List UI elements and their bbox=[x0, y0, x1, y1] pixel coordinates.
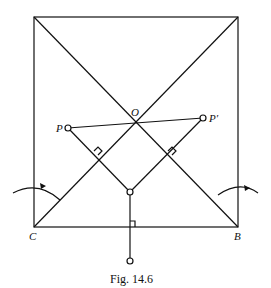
figure-caption: Fig. 14.6 bbox=[110, 272, 153, 286]
label-B: B bbox=[234, 230, 241, 242]
point-P-prime bbox=[200, 115, 206, 121]
label-P-prime: P′ bbox=[208, 112, 219, 124]
perpendicular-from-P-prime bbox=[130, 118, 203, 192]
arrowhead-left bbox=[40, 183, 46, 189]
segment-P-P-prime bbox=[68, 118, 203, 128]
label-C: C bbox=[29, 230, 37, 242]
point-bottom bbox=[127, 258, 133, 264]
point-P bbox=[65, 125, 71, 131]
label-P: P bbox=[55, 122, 63, 134]
rotation-arrow-left bbox=[13, 188, 60, 200]
right-angle-mark-right bbox=[168, 147, 176, 155]
right-angle-mark-base bbox=[130, 221, 135, 227]
point-pivot bbox=[127, 189, 133, 195]
arrowhead-right bbox=[244, 185, 250, 191]
right-angle-mark-left bbox=[94, 147, 102, 155]
figure-diagram: O P P′ C B Fig. 14.6 bbox=[0, 0, 271, 288]
label-O: O bbox=[131, 106, 139, 118]
